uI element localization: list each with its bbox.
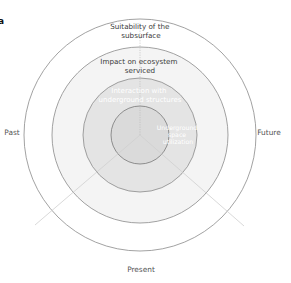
panel-label: a <box>0 16 4 26</box>
time-label-future: Future <box>257 128 281 137</box>
time-label-past: Past <box>4 128 20 137</box>
time-label-present: Present <box>127 265 155 274</box>
concentric-ring-diagram: a Suitability of the subsurface Impact o… <box>0 0 291 283</box>
